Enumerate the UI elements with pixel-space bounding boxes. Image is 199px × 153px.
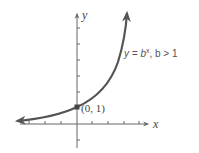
y-axis-label: y bbox=[81, 8, 88, 22]
x-axis-label: x bbox=[152, 117, 159, 131]
x-axis: x bbox=[20, 117, 159, 131]
svg-text:y = bx, b > 1: y = bx, b > 1 bbox=[123, 47, 178, 59]
exponential-curve bbox=[17, 13, 127, 121]
point-0-1-marker bbox=[75, 105, 80, 110]
exponential-graph: x y (0, 1) y = bx, b > 1 bbox=[0, 0, 199, 153]
point-label: (0, 1) bbox=[81, 102, 105, 115]
curve-label-base: y = b bbox=[123, 48, 146, 59]
y-axis: y bbox=[77, 8, 88, 148]
curve-label-condition: , b > 1 bbox=[149, 48, 178, 59]
curve-label: y = bx, b > 1 bbox=[123, 47, 178, 59]
